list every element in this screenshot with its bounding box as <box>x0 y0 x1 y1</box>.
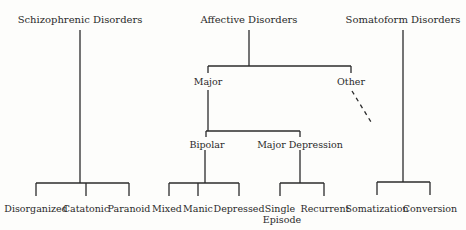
leaf-somatization: Somatization <box>345 203 408 214</box>
diagram-canvas: Schizophrenic Disorders Affective Disord… <box>0 0 466 230</box>
leaf-recurrent: Recurrent <box>301 203 350 214</box>
node-somatoform-disorders: Somatoform Disorders <box>346 14 461 25</box>
somatoform-branch-lines <box>377 30 430 195</box>
node-other: Other <box>337 76 365 87</box>
leaf-mixed: Mixed <box>152 203 182 214</box>
node-schizophrenic-disorders: Schizophrenic Disorders <box>18 14 143 25</box>
node-major-depression: Major Depression <box>257 139 343 150</box>
schizophrenic-branch-lines <box>36 30 129 196</box>
node-affective-disorders: Affective Disorders <box>200 14 297 25</box>
node-bipolar: Bipolar <box>189 139 224 150</box>
tree-connectors <box>0 0 466 230</box>
node-major: Major <box>194 76 223 87</box>
leaf-disorganized: Disorganized <box>4 203 67 214</box>
leaf-single-episode-line2: Episode <box>263 214 301 225</box>
affective-branch-lines <box>169 30 351 196</box>
leaf-single-episode-line1: Single <box>265 203 295 214</box>
leaf-conversion: Conversion <box>403 203 457 214</box>
leaf-paranoid: Paranoid <box>108 203 151 214</box>
other-dashed-line <box>352 91 371 122</box>
leaf-manic: Manic <box>183 203 213 214</box>
leaf-catatonic: Catatonic <box>63 203 109 214</box>
leaf-depressed: Depressed <box>214 203 265 214</box>
